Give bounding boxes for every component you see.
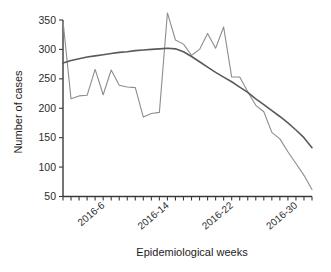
y-tick-label: 100 (38, 161, 56, 173)
x-tick-label: 2016-22 (200, 199, 236, 231)
y-tick-label: 50 (44, 190, 56, 202)
x-tick-label: 2016-14 (136, 199, 172, 231)
series-line-observed (63, 13, 312, 190)
y-axis-ticks: 50100150200250300350 (38, 14, 63, 203)
y-tick-label: 350 (38, 14, 56, 26)
x-tick-label: 2016-6 (76, 199, 107, 228)
y-tick-label: 200 (38, 102, 56, 114)
y-axis-title: Number of cases (12, 70, 24, 154)
series-line-trend (63, 48, 312, 147)
line-chart-canvas: Number of cases Epidemiological weeks 50… (0, 0, 331, 272)
y-tick-label: 150 (38, 131, 56, 143)
y-tick-label: 250 (38, 72, 56, 84)
x-axis-tick-labels: 2016-62016-142016-222016-30 (76, 199, 300, 231)
y-tick-label: 300 (38, 43, 56, 55)
x-axis-title: Epidemiological weeks (136, 246, 248, 258)
chart-figure: Number of cases Epidemiological weeks 50… (0, 0, 331, 272)
x-tick-label: 2016-30 (264, 199, 300, 231)
